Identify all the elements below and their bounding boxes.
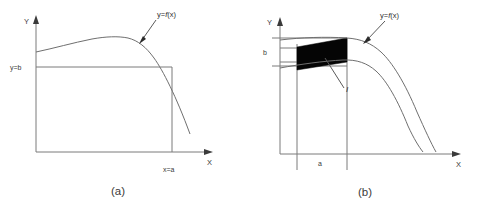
- panel-b-caption: (b): [358, 186, 372, 198]
- panel-b-interval-label-b: b: [263, 49, 267, 56]
- figure-container: Y X y=b x=a y=f(x) (a) Y X: [0, 0, 478, 205]
- panel-b-filled-region: [297, 38, 347, 70]
- panel-a-abscissa-label-a: x=a: [163, 166, 175, 173]
- panel-b-figure: Y X b a y=f(x) I (b): [239, 0, 478, 205]
- panel-a-y-axis-arrowhead: [33, 15, 39, 24]
- panel-b-y-axis-arrowhead: [277, 17, 283, 26]
- panel-a-x-axis-label: X: [207, 158, 212, 167]
- panel-a-level-label-b: y=b: [10, 64, 22, 72]
- panel-a-curve-leader-line: [142, 20, 156, 40]
- panel-b-x-axis-label: X: [456, 160, 461, 169]
- panel-a-curve-label-suffix: (x): [167, 10, 176, 19]
- panel-a-curve-leader-arrowhead: [139, 36, 146, 44]
- panel-a-curve: [36, 37, 190, 134]
- panel-a-y-axis-label: Y: [24, 17, 29, 26]
- panel-a-caption: (a): [111, 185, 125, 197]
- panel-b-region-label: I: [346, 85, 349, 94]
- panel-b-curve-label-suffix: (x): [390, 11, 399, 20]
- panel-b-y-axis-label: Y: [267, 18, 272, 27]
- panel-b-curve-label: y=f(x): [380, 11, 399, 20]
- panel-b-curve-lower: [280, 60, 423, 152]
- panel-a-x-axis-arrowhead: [204, 149, 213, 155]
- panel-b-curve-leader-line: [367, 21, 385, 40]
- panel-b-interval-label-a: a: [318, 160, 322, 167]
- panel-a-curve-label: y=f(x): [157, 10, 176, 19]
- panel-a-figure: Y X y=b x=a y=f(x) (a): [0, 0, 239, 205]
- panel-b-x-axis-arrowhead: [452, 151, 461, 157]
